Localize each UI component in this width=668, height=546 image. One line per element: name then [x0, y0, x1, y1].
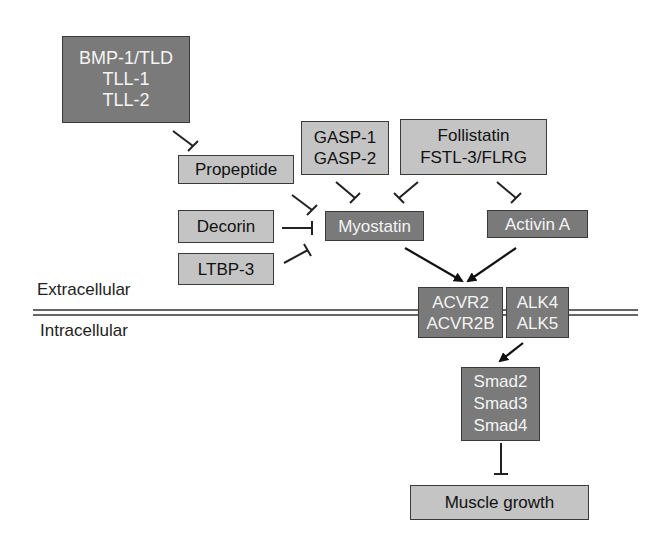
node-ltbp3: LTBP-3 — [178, 253, 274, 285]
edge-gasp-inhibits-myostatin — [336, 182, 360, 203]
intracellular-label: Intracellular — [40, 321, 128, 341]
edge-follistatin-inhibits-myostatin — [394, 182, 418, 203]
node-bmp-tld: BMP-1/TLD TLL-1 TLL-2 — [62, 36, 190, 123]
node-gasp: GASP-1 GASP-2 — [301, 121, 389, 175]
node-activin-a: Activin A — [487, 210, 588, 238]
node-line: ACVR2 — [432, 292, 489, 313]
node-line: Activin A — [505, 215, 570, 234]
edge-activin-activates-receptor — [468, 248, 516, 281]
node-line: Smad4 — [474, 415, 528, 437]
node-line: BMP-1/TLD — [79, 48, 173, 69]
node-alk-receptor: ALK4 ALK5 — [506, 287, 569, 338]
node-line: ACVR2B — [426, 313, 494, 334]
node-follistatin: Follistatin FSTL-3/FLRG — [400, 119, 547, 175]
node-line: GASP-1 — [314, 127, 376, 148]
edge-ltbp3-inhibits-myostatin — [284, 244, 311, 263]
node-line: Muscle growth — [445, 493, 555, 512]
node-line: ALK4 — [517, 292, 559, 313]
node-line: Smad3 — [474, 393, 528, 415]
node-line: ALK5 — [517, 313, 559, 334]
node-myostatin: Myostatin — [325, 211, 424, 241]
edge-myostatin-activates-receptor — [405, 248, 462, 281]
edge-propeptide-inhibits-myostatin — [292, 195, 317, 215]
node-line: Myostatin — [338, 217, 411, 236]
node-line: FSTL-3/FLRG — [420, 147, 527, 169]
node-line: Follistatin — [438, 125, 510, 147]
edge-smad-inhibits-muscle-growth — [494, 443, 508, 474]
edge-bmp-inhibits-propeptide — [173, 131, 198, 151]
node-decorin: Decorin — [178, 210, 274, 243]
node-muscle-growth: Muscle growth — [410, 485, 589, 520]
node-propeptide: Propeptide — [178, 155, 294, 184]
node-line: TLL-2 — [102, 90, 149, 111]
node-acvr2-receptor: ACVR2 ACVR2B — [418, 287, 503, 338]
node-line: Decorin — [197, 217, 256, 236]
extracellular-label: Extracellular — [37, 280, 131, 300]
edge-decorin-inhibits-myostatin — [282, 221, 312, 235]
node-line: TLL-1 — [102, 69, 149, 90]
node-line: LTBP-3 — [198, 260, 254, 279]
node-smad: Smad2 Smad3 Smad4 — [461, 367, 540, 441]
node-line: Smad2 — [474, 371, 528, 393]
node-line: GASP-2 — [314, 148, 376, 169]
edge-alk-activates-smad — [500, 343, 523, 361]
edge-follistatin-inhibits-activin — [497, 182, 521, 203]
node-line: Propeptide — [195, 160, 277, 179]
